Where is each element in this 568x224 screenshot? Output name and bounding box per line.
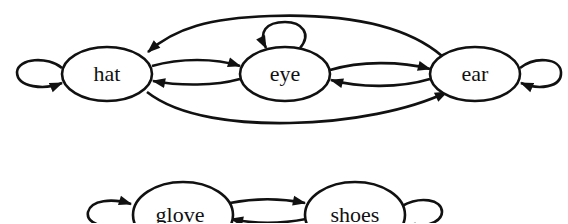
state-graph-diagram: hat eye ear glove shoes <box>0 0 568 223</box>
node-glove-label: glove <box>156 202 205 224</box>
edge-hat-self-loop <box>17 60 62 87</box>
node-shoes-label: shoes <box>331 202 380 224</box>
node-ear-label: ear <box>462 61 490 86</box>
edge-hat-to-eye <box>152 60 240 66</box>
node-hat-label: hat <box>94 61 121 86</box>
node-eye-label: eye <box>270 61 301 86</box>
node-hat: hat <box>62 47 152 101</box>
edge-ear-to-eye <box>331 79 430 86</box>
edge-glove-self-loop <box>88 201 131 223</box>
edge-shoes-self-loop <box>402 200 442 223</box>
node-shoes: shoes <box>305 182 405 223</box>
edge-ear-self-loop <box>520 60 561 87</box>
edge-eye-to-hat <box>153 79 240 85</box>
edge-eye-to-ear <box>330 63 430 70</box>
node-ear: ear <box>430 47 520 101</box>
edge-glove-to-shoes <box>230 199 305 203</box>
node-glove: glove <box>133 182 233 223</box>
node-eye: eye <box>240 47 330 101</box>
edge-shoes-to-glove <box>231 219 306 223</box>
edge-eye-self-loop <box>263 22 305 48</box>
